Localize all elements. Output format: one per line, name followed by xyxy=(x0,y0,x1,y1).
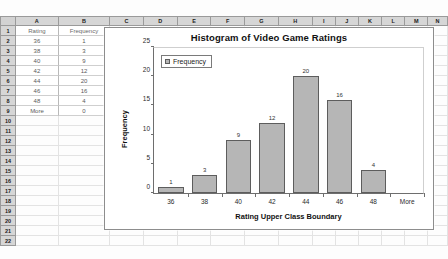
cell-b4[interactable]: 9 xyxy=(59,56,110,66)
cell-a6[interactable]: 44 xyxy=(16,76,59,86)
cell-b15[interactable] xyxy=(59,166,110,176)
cell-a14[interactable] xyxy=(16,156,59,166)
row-header-7[interactable]: 7 xyxy=(0,86,16,96)
cell-D22[interactable] xyxy=(144,236,178,246)
row-header-22[interactable]: 22 xyxy=(0,236,16,246)
cell-a5[interactable]: 42 xyxy=(16,66,59,76)
cell-H22[interactable] xyxy=(279,236,313,246)
chart-legend[interactable]: Frequency xyxy=(161,55,212,68)
column-header-g[interactable]: G xyxy=(245,16,279,26)
row-header-11[interactable]: 11 xyxy=(0,126,16,136)
cell-a17[interactable] xyxy=(16,186,59,196)
cell-L22[interactable] xyxy=(382,236,405,246)
cell-a10[interactable] xyxy=(16,116,59,126)
cell-b2[interactable]: 1 xyxy=(59,36,110,46)
cell-a18[interactable] xyxy=(16,196,59,206)
cell-b6[interactable]: 20 xyxy=(59,76,110,86)
row-header-9[interactable]: 9 xyxy=(0,106,16,116)
cell-b21[interactable] xyxy=(59,226,110,236)
row-header-1[interactable]: 1 xyxy=(0,26,16,36)
cell-a7[interactable]: 46 xyxy=(16,86,59,96)
column-header-l[interactable]: L xyxy=(382,16,405,26)
column-header-f[interactable]: F xyxy=(211,16,245,26)
bar-44[interactable] xyxy=(293,76,319,193)
cell-a3[interactable]: 38 xyxy=(16,46,59,56)
row-header-12[interactable]: 12 xyxy=(0,136,16,146)
cell-b16[interactable] xyxy=(59,176,110,186)
cell-b1-frequency-header[interactable]: Frequency xyxy=(59,26,110,36)
cell-a20[interactable] xyxy=(16,216,59,226)
cell-I22[interactable] xyxy=(313,236,336,246)
cell-a1-rating-header[interactable]: Rating xyxy=(16,26,59,36)
histogram-chart[interactable]: Histogram of Video Game Ratings Frequenc… xyxy=(104,27,434,230)
cell-a8[interactable]: 48 xyxy=(16,96,59,106)
column-header-a[interactable]: A xyxy=(16,16,59,26)
cell-b5[interactable]: 12 xyxy=(59,66,110,76)
column-header-k[interactable]: K xyxy=(359,16,382,26)
cell-b7[interactable]: 16 xyxy=(59,86,110,96)
cell-a22[interactable] xyxy=(16,236,59,246)
column-header-d[interactable]: D xyxy=(144,16,178,26)
cell-a21[interactable] xyxy=(16,226,59,236)
cell-a13[interactable] xyxy=(16,146,59,156)
bar-38[interactable] xyxy=(192,175,218,193)
row-header-13[interactable]: 13 xyxy=(0,146,16,156)
cell-F22[interactable] xyxy=(211,236,245,246)
row-header-8[interactable]: 8 xyxy=(0,96,16,106)
column-header-h[interactable]: H xyxy=(279,16,313,26)
cell-a4[interactable]: 40 xyxy=(16,56,59,66)
cell-C22[interactable] xyxy=(110,236,144,246)
column-header-i[interactable]: I xyxy=(313,16,336,26)
cell-b10[interactable] xyxy=(59,116,110,126)
row-header-15[interactable]: 15 xyxy=(0,166,16,176)
column-header-j[interactable]: J xyxy=(336,16,359,26)
column-header-b[interactable]: B xyxy=(59,16,110,26)
bar-46[interactable] xyxy=(327,100,353,193)
row-header-5[interactable]: 5 xyxy=(0,66,16,76)
cell-b13[interactable] xyxy=(59,146,110,156)
bar-40[interactable] xyxy=(226,140,252,193)
cell-b22[interactable] xyxy=(59,236,110,246)
column-header-n[interactable]: N xyxy=(428,16,448,26)
cell-a15[interactable] xyxy=(16,166,59,176)
cell-a11[interactable] xyxy=(16,126,59,136)
cell-b11[interactable] xyxy=(59,126,110,136)
cell-E22[interactable] xyxy=(178,236,212,246)
cell-b9[interactable]: 0 xyxy=(59,106,110,116)
cell-b19[interactable] xyxy=(59,206,110,216)
row-header-21[interactable]: 21 xyxy=(0,226,16,236)
row-header-10[interactable]: 10 xyxy=(0,116,16,126)
cell-b12[interactable] xyxy=(59,136,110,146)
row-header-2[interactable]: 2 xyxy=(0,36,16,46)
row-header-18[interactable]: 18 xyxy=(0,196,16,206)
cell-a19[interactable] xyxy=(16,206,59,216)
cell-N22[interactable] xyxy=(428,236,448,246)
cell-b3[interactable]: 3 xyxy=(59,46,110,56)
cell-b20[interactable] xyxy=(59,216,110,226)
cell-a9[interactable]: More xyxy=(16,106,59,116)
bar-42[interactable] xyxy=(259,123,285,193)
row-header-4[interactable]: 4 xyxy=(0,56,16,66)
cell-J22[interactable] xyxy=(336,236,359,246)
row-header-19[interactable]: 19 xyxy=(0,206,16,216)
column-header-m[interactable]: M xyxy=(405,16,428,26)
column-header-c[interactable]: C xyxy=(110,16,144,26)
cell-G22[interactable] xyxy=(245,236,279,246)
cell-b18[interactable] xyxy=(59,196,110,206)
row-header-17[interactable]: 17 xyxy=(0,186,16,196)
cell-M22[interactable] xyxy=(405,236,428,246)
row-header-16[interactable]: 16 xyxy=(0,176,16,186)
cell-a12[interactable] xyxy=(16,136,59,146)
cell-b17[interactable] xyxy=(59,186,110,196)
cell-b14[interactable] xyxy=(59,156,110,166)
cell-a2[interactable]: 36 xyxy=(16,36,59,46)
row-header-3[interactable]: 3 xyxy=(0,46,16,56)
cell-b8[interactable]: 4 xyxy=(59,96,110,106)
bar-36[interactable] xyxy=(158,187,184,193)
row-header-14[interactable]: 14 xyxy=(0,156,16,166)
column-header-e[interactable]: E xyxy=(178,16,212,26)
select-all-corner[interactable] xyxy=(0,16,16,26)
cell-a16[interactable] xyxy=(16,176,59,186)
row-header-20[interactable]: 20 xyxy=(0,216,16,226)
row-header-6[interactable]: 6 xyxy=(0,76,16,86)
